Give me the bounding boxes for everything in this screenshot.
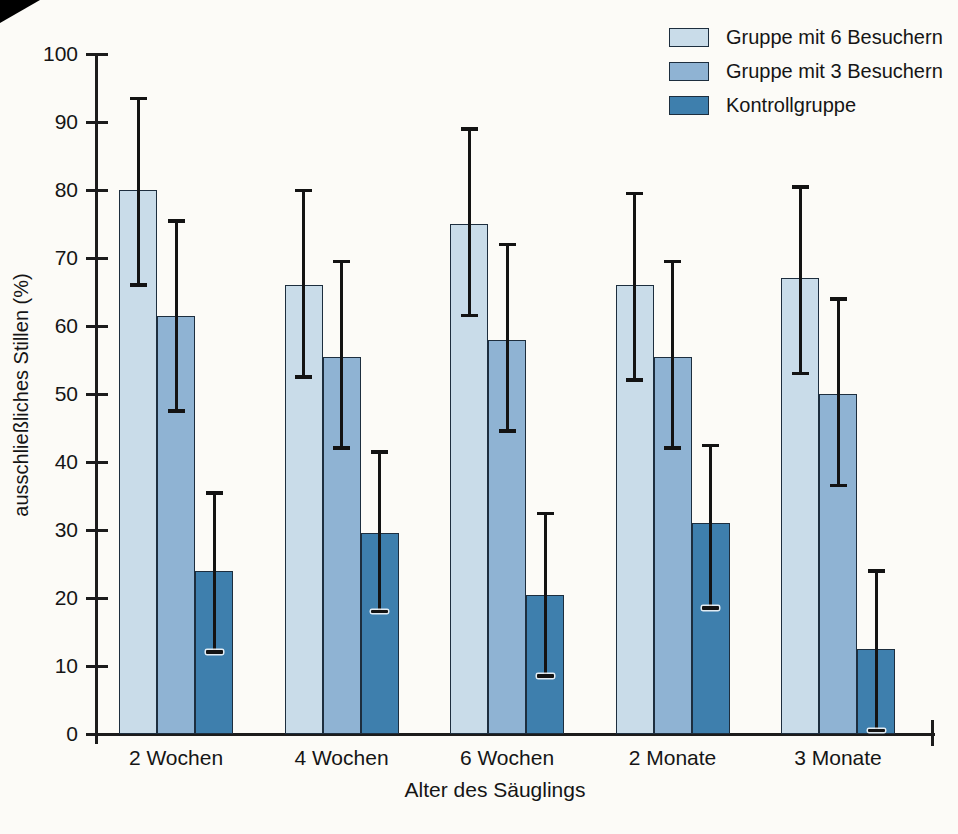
error-cap-top-s2-c2 [537,512,554,516]
legend-swatch-control [669,96,709,115]
error-line-s2-c4 [875,571,878,731]
error-cap-top-s2-c4 [868,569,885,573]
y-axis-tick-80 [86,189,108,192]
y-axis-tick-label-20: 20 [14,586,78,610]
error-cap-top-s2-c3 [702,444,719,448]
y-axis-tick-10 [86,665,108,668]
legend: Gruppe mit 6 Besuchern Gruppe mit 3 Besu… [669,27,943,129]
error-cap-top-s1-c1 [333,260,350,264]
error-cap-top-s1-c2 [499,243,516,247]
error-line-s0-c0 [137,98,140,285]
error-cap-bottom-s0-c2 [461,314,478,318]
error-line-s1-c0 [175,221,178,411]
x-axis-end-tick [931,720,934,746]
x-category-label-1: 4 Wochen [272,746,412,770]
y-axis-label: ausschließliches Stillen (%) [10,245,36,545]
y-axis-tick-100 [86,53,108,56]
error-line-s2-c0 [213,493,216,653]
y-axis-line [95,53,98,744]
error-cap-top-s2-c1 [371,450,388,454]
legend-label-group6: Gruppe mit 6 Besuchern [726,26,943,49]
error-cap-bottom-s2-c1 [371,610,388,614]
y-axis-tick-label-0: 0 [14,722,78,746]
error-line-s0-c3 [633,193,636,380]
error-cap-top-s0-c0 [130,97,147,101]
y-axis-tick-label-10: 10 [14,654,78,678]
y-axis-tick-label-80: 80 [14,178,78,202]
error-line-s2-c1 [378,452,381,612]
y-axis-tick-20 [86,597,108,600]
legend-item-control: Kontrollgruppe [669,95,943,115]
error-cap-bottom-s0-c0 [130,283,147,287]
error-cap-top-s0-c4 [792,185,809,189]
error-cap-bottom-s2-c4 [868,729,885,733]
legend-item-group3: Gruppe mit 3 Besuchern [669,61,943,81]
error-cap-top-s2-c0 [206,491,223,495]
error-line-s0-c2 [468,129,471,316]
error-cap-bottom-s1-c1 [333,446,350,450]
error-line-s1-c4 [837,299,840,486]
legend-swatch-group6 [669,28,709,47]
error-cap-bottom-s1-c0 [168,409,185,413]
error-cap-bottom-s2-c3 [702,606,719,610]
error-cap-bottom-s1-c2 [499,429,516,433]
x-category-label-0: 2 Wochen [106,746,246,770]
error-cap-bottom-s0-c4 [792,372,809,376]
legend-label-control: Kontrollgruppe [726,94,856,117]
y-axis-tick-40 [86,461,108,464]
x-category-label-3: 2 Monate [603,746,743,770]
y-axis-tick-50 [86,393,108,396]
y-axis-tick-label-90: 90 [14,110,78,134]
error-line-s1-c3 [671,261,674,448]
error-cap-top-s1-c3 [664,260,681,264]
error-line-s2-c2 [544,513,547,676]
error-cap-top-s0-c1 [295,189,312,193]
y-axis-tick-90 [86,121,108,124]
error-cap-bottom-s0-c1 [295,375,312,379]
error-cap-top-s0-c2 [461,127,478,131]
error-cap-top-s1-c0 [168,219,185,223]
y-axis-tick-70 [86,257,108,260]
x-category-label-4: 3 Monate [768,746,908,770]
y-axis-tick-0 [86,733,108,736]
error-line-s1-c2 [506,244,509,431]
error-cap-bottom-s2-c2 [537,674,554,678]
legend-label-group3: Gruppe mit 3 Besuchern [726,60,943,83]
scan-corner-artifact [0,0,40,23]
x-category-label-2: 6 Wochen [437,746,577,770]
error-cap-bottom-s1-c4 [830,484,847,488]
bar-chart: 01020304050607080901002 Wochen4 Wochen6 … [0,0,958,834]
error-cap-bottom-s0-c3 [626,378,643,382]
error-cap-bottom-s2-c0 [206,650,223,654]
error-line-s1-c1 [340,261,343,448]
legend-item-group6: Gruppe mit 6 Besuchern [669,27,943,47]
y-axis-tick-60 [86,325,108,328]
y-axis-tick-30 [86,529,108,532]
error-cap-bottom-s1-c3 [664,446,681,450]
error-line-s2-c3 [709,445,712,608]
error-line-s0-c1 [302,190,305,377]
legend-swatch-group3 [669,62,709,81]
y-axis-tick-label-100: 100 [14,42,78,66]
error-line-s0-c4 [799,187,802,374]
x-axis-label: Alter des Säuglings [345,778,645,802]
error-cap-top-s0-c3 [626,192,643,196]
error-cap-top-s1-c4 [830,297,847,301]
